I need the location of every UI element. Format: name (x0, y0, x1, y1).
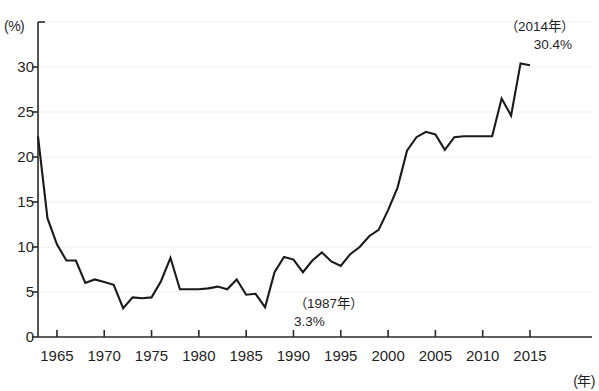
annotation-trough-1987: （1987年） 3.3% (294, 295, 363, 331)
gridlines (38, 22, 592, 292)
annotation-trough-1987-value: 3.3% (294, 313, 363, 331)
annotation-peak-2014-value: 30.4% (505, 36, 574, 54)
annotation-peak-2014-year: （2014年） (505, 18, 574, 36)
line-chart: (%) (年) 051015202530 1965197019751980198… (0, 0, 599, 391)
plot-area (0, 0, 599, 391)
axis-lines (38, 22, 592, 337)
annotation-trough-1987-year: （1987年） (294, 295, 363, 313)
data-series-line (38, 63, 530, 308)
y-axis-tick-marks (32, 67, 38, 337)
annotation-peak-2014: （2014年） 30.4% (505, 18, 574, 54)
